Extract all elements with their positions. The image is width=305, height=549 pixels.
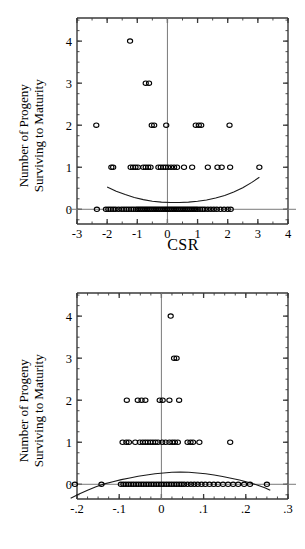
data-point-marker <box>127 39 132 43</box>
y-tick-label: 4 <box>66 310 73 324</box>
x-tick-label: 0 <box>158 502 164 516</box>
fit-curve <box>107 177 259 202</box>
data-point-marker <box>94 123 99 127</box>
minor-ticks <box>77 293 288 499</box>
data-point-marker <box>257 165 262 169</box>
y-tick-label: 1 <box>66 436 72 450</box>
y-tick-label: 4 <box>66 35 73 49</box>
data-point-marker <box>146 81 151 85</box>
axis-frame <box>77 293 288 499</box>
data-point-marker <box>164 123 169 127</box>
y-tick-label: 1 <box>66 161 72 175</box>
reference-lines <box>69 293 296 499</box>
figure-container: Number of Progeny Surviving to Maturity … <box>0 0 305 549</box>
plot-area-csr: -3-2-10123401234 <box>0 0 305 272</box>
y-tick-label: 3 <box>66 77 72 91</box>
data-point-marker <box>228 440 233 444</box>
x-axis-title-csr: CSR <box>77 236 289 254</box>
data-point-marker <box>181 165 186 169</box>
data-point-marker <box>190 165 195 169</box>
x-tick-label: .3 <box>283 502 292 516</box>
y-tick-label: 2 <box>66 119 72 133</box>
data-point-marker <box>177 398 182 402</box>
data-point-marker <box>168 314 173 318</box>
x-tick-label: -.1 <box>112 502 126 516</box>
data-point-marker <box>167 398 172 402</box>
data-point-marker <box>143 398 148 402</box>
data-point-marker <box>124 398 129 402</box>
chart-panel-emr: Number of Progeny Surviving to Maturity … <box>0 272 305 549</box>
data-point-marker <box>228 165 233 169</box>
reference-lines <box>69 18 296 224</box>
data-point-marker <box>205 165 210 169</box>
x-tick-label: -.2 <box>70 502 84 516</box>
plot-area-emr: -.2-.10.1.2.301234 <box>0 272 305 549</box>
data-points <box>94 39 262 212</box>
data-point-marker <box>197 440 202 444</box>
x-tick-label: .1 <box>199 502 208 516</box>
minor-ticks <box>77 18 288 224</box>
x-tick-label: .2 <box>241 502 250 516</box>
chart-panel-csr: Number of Progeny Surviving to Maturity … <box>0 0 305 272</box>
y-tick-label: 3 <box>66 352 72 366</box>
data-points <box>72 314 269 487</box>
axis-frame <box>77 18 288 224</box>
data-point-marker <box>227 123 232 127</box>
y-tick-label: 2 <box>66 394 72 408</box>
